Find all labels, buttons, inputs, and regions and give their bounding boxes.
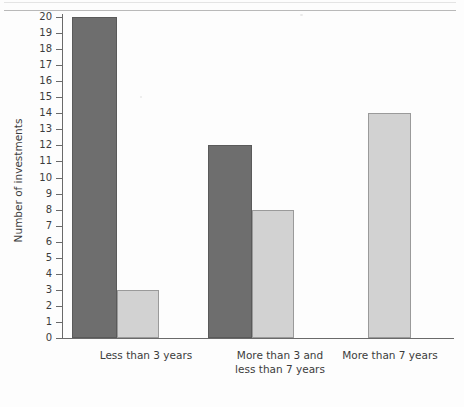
y-tick-label-text: 1 bbox=[30, 317, 52, 327]
category-label: More than 7 years bbox=[330, 348, 450, 362]
y-tick-label: 8 bbox=[0, 205, 52, 215]
bar-light bbox=[252, 210, 294, 338]
y-axis-line bbox=[62, 14, 63, 339]
y-tick-label: 20 bbox=[0, 12, 52, 22]
y-tick-mark bbox=[56, 97, 62, 98]
y-tick-label: 9 bbox=[0, 189, 52, 199]
bar-light bbox=[368, 113, 411, 338]
y-tick-label: 6 bbox=[0, 237, 52, 247]
paper-speck bbox=[140, 96, 142, 98]
scan-rule-top bbox=[4, 2, 456, 3]
paper-speck bbox=[300, 14, 303, 16]
y-tick-mark bbox=[56, 65, 62, 66]
y-tick-label: 7 bbox=[0, 221, 52, 231]
y-tick-mark bbox=[56, 194, 62, 195]
y-tick-mark bbox=[56, 17, 62, 18]
y-tick-label-text: 9 bbox=[30, 189, 52, 199]
y-tick-mark bbox=[56, 322, 62, 323]
y-tick-mark bbox=[56, 338, 62, 339]
y-tick-label-text: 7 bbox=[30, 221, 52, 231]
y-tick-mark bbox=[56, 226, 62, 227]
y-tick-label: 5 bbox=[0, 253, 52, 263]
y-tick-mark bbox=[56, 274, 62, 275]
y-tick-label: 19 bbox=[0, 28, 52, 38]
y-tick-label-text: 3 bbox=[30, 285, 52, 295]
bar-dark bbox=[208, 145, 252, 338]
y-tick-label: 2 bbox=[0, 301, 52, 311]
y-tick-label: 0 bbox=[0, 333, 52, 343]
y-tick-label-text: 5 bbox=[30, 253, 52, 263]
y-tick-label: 14 bbox=[0, 108, 52, 118]
y-tick-mark bbox=[56, 242, 62, 243]
y-tick-label: 17 bbox=[0, 60, 52, 70]
y-tick-label-text: 13 bbox=[30, 124, 52, 134]
y-tick-mark bbox=[56, 145, 62, 146]
y-tick-label-text: 12 bbox=[30, 140, 52, 150]
x-axis-line bbox=[62, 338, 454, 339]
y-tick-label-text: 2 bbox=[30, 301, 52, 311]
y-tick-mark bbox=[56, 258, 62, 259]
scan-rule bbox=[4, 10, 456, 11]
y-tick-mark bbox=[56, 161, 62, 162]
y-tick-mark bbox=[56, 290, 62, 291]
y-tick-label-text: 4 bbox=[30, 269, 52, 279]
y-tick-label-text: 8 bbox=[30, 205, 52, 215]
y-tick-label-text: 20 bbox=[30, 12, 52, 22]
y-tick-mark bbox=[56, 113, 62, 114]
y-tick-label-text: 11 bbox=[30, 156, 52, 166]
y-tick-label: 10 bbox=[0, 173, 52, 183]
y-tick-mark bbox=[56, 178, 62, 179]
y-tick-label: 1 bbox=[0, 317, 52, 327]
y-tick-label-text: 17 bbox=[30, 60, 52, 70]
y-tick-label-text: 15 bbox=[30, 92, 52, 102]
y-tick-mark bbox=[56, 33, 62, 34]
y-tick-mark bbox=[56, 306, 62, 307]
y-tick-label-text: 0 bbox=[30, 333, 52, 343]
y-tick-label: 15 bbox=[0, 92, 52, 102]
y-tick-mark bbox=[56, 210, 62, 211]
y-tick-label-text: 14 bbox=[30, 108, 52, 118]
y-tick-label: 18 bbox=[0, 44, 52, 54]
y-tick-label: 16 bbox=[0, 76, 52, 86]
y-tick-label: 4 bbox=[0, 269, 52, 279]
bar-chart: Number of investments 201918171615141312… bbox=[0, 0, 464, 407]
y-tick-label: 11 bbox=[0, 156, 52, 166]
bar-dark bbox=[72, 17, 117, 338]
y-tick-mark bbox=[56, 49, 62, 50]
y-tick-label-text: 18 bbox=[30, 44, 52, 54]
y-tick-mark bbox=[56, 129, 62, 130]
y-tick-label-text: 16 bbox=[30, 76, 52, 86]
y-tick-label: 3 bbox=[0, 285, 52, 295]
y-tick-label-text: 19 bbox=[30, 28, 52, 38]
y-tick-mark bbox=[56, 81, 62, 82]
y-tick-label-text: 6 bbox=[30, 237, 52, 247]
y-tick-label: 13 bbox=[0, 124, 52, 134]
y-tick-label-text: 10 bbox=[30, 173, 52, 183]
y-tick-label: 12 bbox=[0, 140, 52, 150]
bar-light bbox=[117, 290, 159, 338]
